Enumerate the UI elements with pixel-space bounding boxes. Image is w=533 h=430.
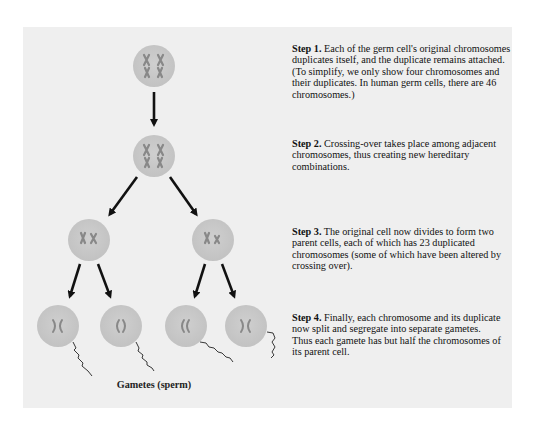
step-description: Crossing-over takes place among adjacent… — [292, 138, 496, 172]
gametes-caption: Gametes (sperm) — [94, 379, 214, 390]
step-description: Each of the germ cell's original chromos… — [292, 43, 510, 100]
arrow-to-gamete-1 — [70, 264, 80, 296]
parent-cell-left — [68, 219, 110, 261]
tail-icon — [73, 342, 92, 376]
tail-icon — [136, 342, 154, 371]
step-label: Step 1. — [292, 43, 321, 54]
arrow-to-gamete-4 — [222, 264, 234, 296]
arrow-to-right-parent — [170, 177, 196, 214]
crossing-over-cell — [133, 135, 175, 177]
step-description: The original cell now divides to form tw… — [292, 226, 501, 271]
step-label: Step 2. — [292, 138, 321, 149]
gamete-1 — [37, 305, 92, 376]
step-label: Step 3. — [292, 226, 321, 237]
step-1-text: Step 1. Each of the germ cell's original… — [292, 43, 517, 100]
arrow-to-left-parent — [110, 177, 137, 214]
step-2-text: Step 2. Crossing-over takes place among … — [292, 138, 517, 172]
tail-icon — [267, 332, 275, 358]
gamete-2 — [100, 305, 154, 371]
step-3-text: Step 3. The original cell now divides to… — [292, 226, 517, 272]
gamete-4 — [225, 305, 275, 358]
step-description: Finally, each chromosome and its duplica… — [292, 312, 501, 357]
arrow-to-gamete-2 — [98, 264, 110, 296]
tail-icon — [200, 342, 233, 362]
arrow-to-gamete-3 — [195, 264, 205, 296]
gamete-3 — [165, 305, 233, 362]
germ-cell — [133, 45, 175, 87]
parent-cell-right — [192, 219, 234, 261]
step-4-text: Step 4. Finally, each chromosome and its… — [292, 312, 502, 358]
step-label: Step 4. — [292, 312, 321, 323]
